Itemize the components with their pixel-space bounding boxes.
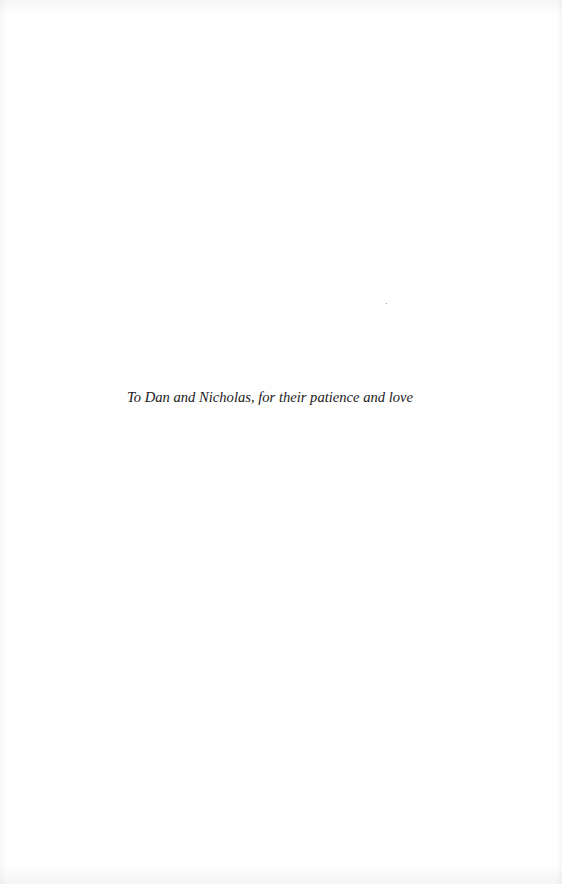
scan-shadow-bottom [0,866,562,884]
book-page: To Dan and Nicholas, for their patience … [0,0,562,884]
scan-speck [386,303,387,304]
dedication-text: To Dan and Nicholas, for their patience … [127,388,417,406]
scan-shadow-left [0,0,6,884]
scan-shadow-top [0,0,562,14]
scan-shadow-right [556,0,562,884]
